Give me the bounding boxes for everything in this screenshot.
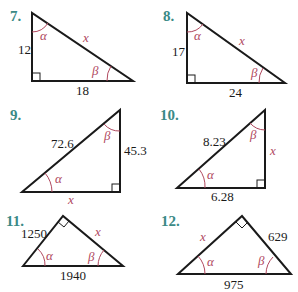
side-vertical-label: 17 (172, 44, 186, 59)
problem-number: 10. (160, 107, 179, 123)
right-angle-marker (236, 222, 248, 228)
angle-beta-arc (98, 250, 104, 266)
triangle (178, 216, 291, 274)
triangle (23, 216, 123, 266)
angle-alpha-arc (199, 169, 205, 188)
problem-8: 8. α β 17 24 x (163, 8, 285, 100)
side-left-label: x (199, 229, 206, 244)
side-horizontal-label: x (67, 192, 74, 207)
side-horizontal-label: 18 (76, 83, 89, 98)
side-right-label: 629 (268, 229, 288, 244)
angle-alpha-arc (45, 173, 52, 192)
problem-number: 7. (10, 8, 22, 24)
right-angle-marker (58, 221, 69, 227)
exercise-figures: 7. α β 12 18 x 8. α β 17 24 x 9. α β 72.… (0, 0, 298, 292)
problem-number: 9. (10, 107, 22, 123)
problem-9: 9. α β 72.6 45.3 x (10, 107, 147, 207)
angle-beta-label: β (257, 253, 265, 268)
side-base-label: 1940 (60, 268, 86, 283)
triangle (187, 13, 285, 83)
right-angle-marker (112, 184, 120, 192)
side-hypotenuse-label: 8.23 (203, 134, 226, 149)
side-hypotenuse-label: x (238, 33, 245, 48)
angle-beta-label: β (87, 249, 95, 264)
side-base-label: 975 (224, 277, 244, 292)
problem-number: 8. (163, 8, 175, 24)
angle-alpha-label: α (40, 28, 48, 43)
angle-alpha-arc (38, 249, 45, 266)
problem-7: 7. α β 12 18 x (10, 8, 133, 98)
side-horizontal-label: 24 (229, 85, 243, 100)
angle-beta-label: β (249, 127, 257, 142)
angle-alpha-label: α (194, 28, 202, 43)
problem-11: 11. α β 1250 x 1940 (6, 213, 123, 283)
right-angle-marker (257, 180, 265, 188)
angle-alpha-label: α (207, 167, 215, 182)
side-vertical-label: x (269, 143, 276, 158)
problem-10: 10. α β 8.23 x 6.28 (160, 107, 276, 204)
angle-beta-label: β (103, 128, 111, 143)
right-angle-marker (187, 75, 195, 83)
angle-alpha-label: α (55, 171, 63, 186)
problem-12: 12. α β x 629 975 (161, 213, 291, 292)
side-vertical-label: 12 (18, 42, 31, 57)
angle-beta-label: β (91, 63, 99, 78)
side-right-label: x (94, 224, 101, 239)
triangle (22, 110, 120, 192)
triangle (177, 110, 265, 188)
angle-beta-arc (259, 68, 263, 83)
angle-alpha-label: α (46, 248, 54, 263)
angle-alpha-label: α (207, 254, 215, 269)
angle-beta-label: β (250, 65, 258, 80)
angle-alpha-arc (198, 256, 205, 274)
right-angle-marker (32, 73, 40, 81)
angle-beta-arc (266, 257, 273, 274)
problem-number: 12. (161, 213, 180, 229)
side-left-label: 1250 (21, 226, 47, 241)
side-hypotenuse-label: x (82, 30, 89, 45)
side-horizontal-label: 6.28 (211, 189, 234, 204)
side-vertical-label: 45.3 (124, 143, 147, 158)
side-hypotenuse-label: 72.6 (51, 136, 74, 151)
triangle (32, 13, 133, 81)
angle-beta-arc (107, 66, 111, 81)
